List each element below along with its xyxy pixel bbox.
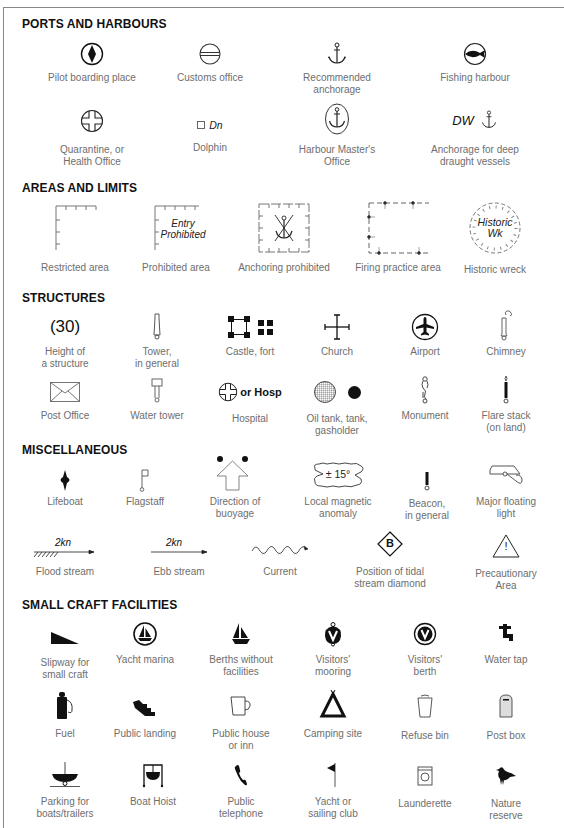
stairs-icon bbox=[90, 696, 200, 720]
item-label: Firing practice area bbox=[343, 262, 453, 274]
item-label: Flare stack (on land) bbox=[451, 410, 561, 434]
flood-rate: 2kn bbox=[55, 537, 71, 548]
bird-icon bbox=[451, 762, 561, 790]
ebb-rate: 2kn bbox=[166, 537, 182, 548]
buoyage-direction-icon bbox=[180, 456, 290, 492]
anchoring-prohibited-icon bbox=[229, 200, 339, 254]
item-label: Yacht marina bbox=[90, 654, 200, 666]
section-areas-limits: AREAS AND LIMITS bbox=[22, 181, 137, 195]
harbour-master-icon bbox=[282, 102, 392, 136]
item-label: Quarantine, or Health Office bbox=[37, 144, 147, 168]
section-miscellaneous: MISCELLANEOUS bbox=[22, 443, 127, 457]
item-label: Nature reserve bbox=[451, 798, 561, 822]
item-label: Anchorage for deep draught vessels bbox=[420, 144, 530, 168]
restricted-area-icon bbox=[20, 200, 130, 254]
item-label: Post box bbox=[451, 730, 561, 742]
dolphin-icon: Dn bbox=[155, 118, 265, 132]
item-label: Precautionary Area bbox=[451, 568, 561, 592]
item-label: Customs office bbox=[155, 72, 265, 84]
item-label: Position of tidal stream diamond bbox=[335, 566, 445, 590]
water-tap-icon bbox=[451, 618, 561, 650]
historic-wk-text: Historic Wk bbox=[460, 217, 530, 239]
entry-prohibited-text: Entry Prohibited bbox=[143, 218, 223, 240]
section-structures: STRUCTURES bbox=[22, 291, 105, 305]
item-label: Pilot boarding place bbox=[37, 72, 147, 84]
firing-practice-icon bbox=[343, 200, 453, 254]
fish-icon bbox=[420, 40, 530, 68]
section-small-craft: SMALL CRAFT FACILITIES bbox=[22, 598, 177, 612]
customs-office-icon bbox=[155, 40, 265, 68]
deep-anchorage-icon: DW bbox=[420, 108, 530, 132]
anchor-icon bbox=[282, 40, 392, 68]
section-ports-harbours: PORTS AND HARBOURS bbox=[22, 17, 167, 31]
chimney-icon bbox=[451, 310, 561, 342]
item-label: Prohibited area bbox=[121, 262, 231, 274]
dolphin-abbrev: Dn bbox=[209, 119, 222, 131]
dw-abbrev: DW bbox=[452, 113, 474, 128]
hosp-abbrev: or Hosp bbox=[240, 386, 282, 398]
item-label: Chimney bbox=[451, 346, 561, 358]
item-label: Fishing harbour bbox=[420, 72, 530, 84]
yacht-marina-icon bbox=[90, 618, 200, 650]
item-label: Flood stream bbox=[10, 566, 120, 578]
item-label: Current bbox=[225, 566, 335, 578]
post-box-icon bbox=[451, 690, 561, 722]
item-label: Harbour Master's Office bbox=[282, 144, 392, 168]
quarantine-icon bbox=[37, 106, 147, 136]
item-label: Ebb stream bbox=[124, 566, 234, 578]
floating-light-icon bbox=[451, 458, 561, 492]
item-label: Major floating light bbox=[451, 496, 561, 520]
item-label: Public landing bbox=[90, 728, 200, 740]
current-icon bbox=[225, 534, 335, 562]
item-label: Restricted area bbox=[20, 262, 130, 274]
item-label: Dolphin bbox=[155, 142, 265, 154]
warning-mark: ! bbox=[451, 540, 561, 552]
item-label: Anchoring prohibited bbox=[229, 262, 339, 274]
item-label: Historic wreck bbox=[440, 264, 550, 276]
item-label: Water tap bbox=[451, 654, 561, 666]
item-label: Recommended anchorage bbox=[282, 72, 392, 96]
item-label: Direction of buoyage bbox=[180, 496, 290, 520]
flare-stack-icon bbox=[451, 376, 561, 404]
pilot-boarding-icon bbox=[37, 40, 147, 68]
tidal-diamond-letter: B bbox=[335, 537, 445, 549]
